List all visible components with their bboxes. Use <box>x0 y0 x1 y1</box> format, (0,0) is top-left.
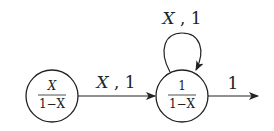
automaton-diagram: X 1−X 1 1−X X , 1 X , 1 1 <box>0 0 274 131</box>
state-2-numerator: 1 <box>178 79 186 93</box>
state-1-numerator: X <box>47 79 57 93</box>
exit-label: 1 <box>228 73 239 93</box>
edge-s2-self-loop-label: X , 1 <box>160 8 201 28</box>
edge-s1-s2-label: X , 1 <box>94 72 135 92</box>
edge-s2-self-loop: X , 1 <box>160 8 201 72</box>
state-2: 1 1−X <box>156 70 208 122</box>
state-1-denominator: 1−X <box>39 97 66 111</box>
self-loop-arrow <box>164 33 201 72</box>
state-1: X 1−X <box>26 70 78 122</box>
edge-s2-exit: 1 <box>208 73 258 96</box>
state-2-denominator: 1−X <box>169 97 196 111</box>
state-2-circle <box>156 70 208 122</box>
state-1-circle <box>26 70 78 122</box>
edge-s1-s2: X , 1 <box>78 72 155 96</box>
